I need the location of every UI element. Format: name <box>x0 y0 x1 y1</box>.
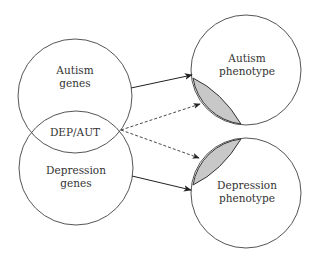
dep-aut-label: DEP/AUT <box>50 126 100 138</box>
autism-genes-label-line1: Autism <box>55 64 93 76</box>
depression-genes-label-line2: genes <box>60 177 91 189</box>
depression-phenotype-label-line2: phenotype <box>219 192 275 204</box>
depression-genes-label-line1: Depression <box>46 164 106 176</box>
arrow-depaut-to-autism-phenotype <box>121 104 200 130</box>
arrow-depression-genes-to-phenotype <box>132 176 191 190</box>
autism-phenotype-label-line1: Autism <box>227 52 265 64</box>
depression-phenotype-label-line1: Depression <box>217 179 277 191</box>
arrow-depaut-to-depression-phenotype <box>121 130 199 158</box>
autism-phenotype-label-line2: phenotype <box>219 65 275 77</box>
arrow-autism-genes-to-phenotype <box>131 75 192 88</box>
gene-phenotype-diagram: Autism genes DEP/AUT Depression genes Au… <box>0 0 316 258</box>
autism-genes-label-line2: genes <box>59 77 90 89</box>
